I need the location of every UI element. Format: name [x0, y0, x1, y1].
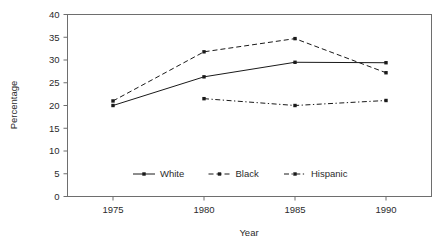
data-point-white [384, 61, 387, 64]
data-point-hispanic [293, 104, 296, 107]
y-tick-label: 35 [49, 32, 60, 43]
y-tick-label: 40 [49, 9, 60, 20]
legend-marker-black [218, 172, 221, 175]
data-point-white [202, 75, 205, 78]
data-point-white [111, 104, 114, 107]
x-tick-label: 1985 [284, 204, 305, 215]
x-tick-label: 1980 [193, 204, 214, 215]
data-point-hispanic [384, 99, 387, 102]
data-point-black [202, 50, 205, 53]
y-tick-label: 25 [49, 77, 60, 88]
legend-label-white: White [160, 168, 184, 179]
chart-canvas: 0510152025303540 1975198019851990 Percen… [0, 0, 446, 251]
data-point-black [111, 99, 114, 102]
y-tick-label: 15 [49, 123, 60, 134]
data-point-white [293, 61, 296, 64]
y-tick-label: 5 [54, 168, 59, 179]
legend-marker-white [142, 172, 145, 175]
data-point-hispanic [202, 97, 205, 100]
y-tick-label: 0 [54, 191, 59, 202]
x-tick-label: 1975 [102, 204, 123, 215]
legend-marker-hispanic [293, 172, 296, 175]
data-point-black [293, 37, 296, 40]
line-chart: 0510152025303540 1975198019851990 Percen… [0, 0, 446, 251]
y-axis-title: Percentage [8, 81, 19, 130]
legend-label-black: Black [236, 168, 259, 179]
x-axis-title: Year [239, 227, 258, 238]
y-tick-label: 10 [49, 145, 60, 156]
x-tick-label: 1990 [375, 204, 396, 215]
y-tick-label: 30 [49, 54, 60, 65]
data-point-black [384, 71, 387, 74]
chart-legend: WhiteBlackHispanic [133, 168, 348, 179]
y-tick-label: 20 [49, 100, 60, 111]
legend-label-hispanic: Hispanic [311, 168, 348, 179]
